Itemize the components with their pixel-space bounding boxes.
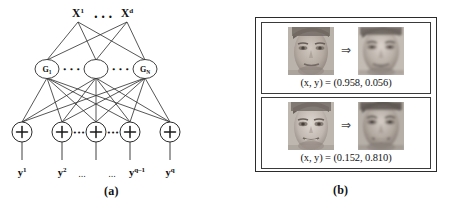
panel-a-network-diagram: X1 Xd • • • G1 GN • • • • • • ••• ••• y1…	[0, 0, 228, 207]
edges-input-to-hidden	[47, 22, 145, 60]
plus-icon-group	[17, 127, 176, 138]
figure-root: X1 Xd • • • G1 GN • • • • • • ••• ••• y1…	[0, 0, 453, 207]
transform-arrow-icon-2: ⇒	[341, 119, 351, 133]
coordinate-caption-1-text: (x, y) = (0.958, 0.056)	[300, 77, 391, 88]
output-label-ellipsis-right: ...	[108, 170, 116, 179]
edges-hidden-to-output	[22, 78, 170, 122]
output-ellipsis-right: •••	[107, 129, 119, 137]
face-pair-row-2: ⇒	[288, 101, 404, 151]
hidden-ellipsis-left: • • •	[62, 65, 80, 74]
panel-b-face-examples: ⇒	[255, 17, 437, 172]
output-layer-nodes	[12, 122, 180, 142]
output-label-y1: y1	[18, 166, 27, 178]
panel-a-sublabel: (a)	[104, 184, 119, 199]
output-label-ellipsis-left: ...	[78, 170, 86, 179]
input-label-x1: X1	[72, 7, 84, 19]
transform-arrow-icon-1: ⇒	[341, 44, 351, 58]
output-ellipsis-left: •••	[73, 129, 85, 137]
output-label-yqm1: yq–1	[129, 166, 146, 178]
output-label-yq: yq	[165, 166, 174, 178]
face-output-1-image	[358, 27, 404, 75]
output-label-y2: y2	[58, 166, 67, 178]
network-diagram-svg: X1 Xd • • • G1 GN • • • • • • ••• ••• y1…	[0, 0, 228, 185]
coordinate-caption-1: (x, y) = (0.958, 0.056)	[300, 77, 391, 88]
hidden-node-middle	[84, 60, 108, 79]
face-input-2-image	[288, 102, 334, 150]
hidden-layer-nodes	[35, 60, 157, 79]
coordinate-caption-2: (x, y) = (0.152, 0.810)	[300, 152, 391, 163]
panel-b-sublabel: (b)	[333, 183, 348, 198]
coordinate-caption-2-text: (x, y) = (0.152, 0.810)	[300, 152, 391, 163]
edges-output-to-labels	[22, 142, 170, 160]
example-box-1: ⇒	[261, 22, 431, 94]
face-input-1-image	[288, 27, 334, 75]
hidden-ellipsis-right: • • •	[111, 65, 129, 74]
input-ellipsis: • • •	[93, 13, 112, 22]
face-pair-row-1: ⇒	[288, 26, 404, 76]
face-output-2-image	[358, 102, 404, 150]
example-box-2: ⇒	[261, 97, 431, 169]
input-label-xd: Xd	[121, 7, 133, 19]
